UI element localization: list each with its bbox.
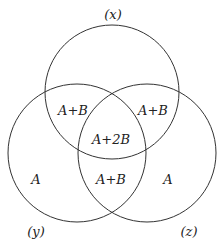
set-label-z: (z) (181, 224, 198, 239)
venn-diagram: (x) (y) (z) A+B A+B A+2B A+B A A (0, 0, 224, 246)
region-x-y: A+B (57, 103, 88, 118)
region-z-only: A (162, 172, 172, 187)
region-y-z: A+B (95, 172, 126, 187)
set-label-y: (y) (27, 224, 45, 239)
region-x-z: A+B (137, 103, 168, 118)
set-label-x: (x) (104, 7, 121, 22)
region-x-y-z: A+2B (91, 132, 130, 147)
region-y-only: A (30, 172, 40, 187)
